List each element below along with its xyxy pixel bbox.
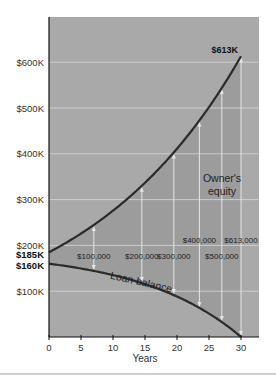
y-label-160k: $160K bbox=[16, 260, 44, 271]
x-axis-title: Years bbox=[132, 353, 157, 364]
peak-value-label: $613K bbox=[211, 45, 238, 55]
mortgage-equity-chart: $100K$200K$300K$400K$500K$600K$185K$160K… bbox=[0, 0, 276, 381]
bottom-divider bbox=[0, 373, 276, 375]
x-tick-label: 5 bbox=[78, 342, 83, 353]
owners-equity-label-2: equity bbox=[208, 185, 237, 197]
y-label-185k: $185K bbox=[16, 249, 44, 260]
plot-area: $100K$200K$300K$400K$500K$600K$185K$160K… bbox=[16, 17, 259, 364]
x-tick-label: 25 bbox=[204, 342, 215, 353]
y-tick-label: $600K bbox=[17, 57, 45, 68]
y-tick-label: $500K bbox=[17, 103, 45, 114]
owners-equity-label: Owner's bbox=[203, 172, 241, 184]
equity-value-label: $613,000 bbox=[224, 236, 258, 245]
y-tick-label: $400K bbox=[17, 148, 45, 159]
x-tick-label: 30 bbox=[236, 342, 247, 353]
equity-value-label: $400,000 bbox=[183, 236, 217, 245]
x-tick-label: 15 bbox=[140, 342, 151, 353]
equity-value-label: $500,000 bbox=[205, 252, 239, 261]
equity-value-label: $300,000 bbox=[157, 252, 191, 261]
y-tick-label: $300K bbox=[17, 194, 45, 205]
x-tick-label: 10 bbox=[108, 342, 119, 353]
y-tick-label: $100K bbox=[17, 286, 45, 297]
equity-value-label: $200,000 bbox=[125, 252, 159, 261]
x-tick-label: 0 bbox=[46, 342, 51, 353]
x-tick-label: 20 bbox=[172, 342, 183, 353]
equity-value-label: $100,000 bbox=[77, 252, 111, 261]
